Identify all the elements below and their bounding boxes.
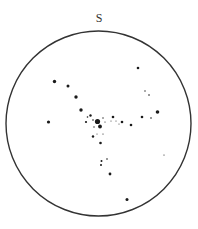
star-dot xyxy=(74,95,77,98)
star-dot xyxy=(119,124,120,125)
star-dot xyxy=(141,116,144,119)
star-dot xyxy=(98,125,102,129)
star-dot xyxy=(47,120,50,123)
star-dot xyxy=(85,121,87,123)
star-dot xyxy=(126,198,129,201)
star-dot xyxy=(137,67,140,70)
star-dot xyxy=(116,121,117,122)
star-dot xyxy=(150,117,152,119)
star-dot xyxy=(144,90,145,91)
direction-label-south: S xyxy=(94,12,104,24)
star-dot xyxy=(99,142,102,145)
star-dot xyxy=(89,114,91,116)
star-dot xyxy=(97,134,98,135)
star-dot xyxy=(112,116,115,119)
star-dot xyxy=(95,119,100,124)
star-dot xyxy=(102,133,103,134)
star-dot xyxy=(111,121,112,122)
sky-chart-canvas xyxy=(0,0,198,229)
star-dot xyxy=(53,80,56,83)
star-dot xyxy=(100,164,102,166)
star-dot xyxy=(87,116,89,118)
star-dot xyxy=(92,135,94,137)
star-dot xyxy=(106,158,108,160)
star-dot xyxy=(148,94,150,96)
star-dot xyxy=(92,119,94,121)
star-dot xyxy=(79,108,82,111)
star-dot xyxy=(104,121,105,122)
star-dot xyxy=(93,126,94,127)
star-dot xyxy=(163,154,164,155)
star-dot xyxy=(101,160,103,162)
star-dot xyxy=(67,85,70,88)
star-dot xyxy=(102,117,103,118)
star-dot xyxy=(109,173,112,176)
star-field xyxy=(47,67,165,201)
star-dot xyxy=(130,124,133,127)
star-dot xyxy=(121,121,124,124)
star-dot xyxy=(156,110,160,114)
